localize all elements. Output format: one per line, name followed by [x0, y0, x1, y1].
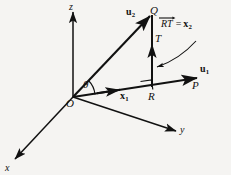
vector-u1-line	[73, 78, 197, 97]
vector-overbar-arrow-icon	[159, 16, 176, 20]
annotation-leader-arrow	[157, 41, 196, 67]
axis-label-z: z	[69, 2, 73, 12]
vector-u2-base: u	[126, 6, 132, 17]
vector-label-u2: u2	[126, 7, 135, 19]
point-label-P: P	[192, 80, 199, 91]
vector-u1-sub: 1	[206, 68, 210, 75]
point-label-O: O	[66, 98, 74, 109]
vector-u2-sub: 2	[132, 11, 136, 18]
vector-label-u1: u1	[200, 64, 209, 76]
x-axis-line	[15, 97, 73, 159]
vector-projection-figure: O Q T R P x y z θ u1 u2 x1 RT =x2	[0, 0, 231, 175]
point-label-T: T	[155, 33, 161, 44]
vector-label-x1: x1	[120, 91, 129, 103]
vector-x1-arrow	[97, 90, 120, 94]
annotation-rt-equals-x2: RT =x2	[160, 19, 192, 31]
annotation-result-sub: 2	[188, 23, 192, 30]
point-label-R: R	[148, 91, 155, 102]
axis-label-x: x	[5, 163, 9, 173]
axis-label-y: y	[180, 125, 184, 135]
theta-arc	[89, 81, 96, 95]
vector-u1-base: u	[200, 63, 206, 74]
vector-x1-sub: 1	[125, 95, 129, 102]
angle-label-theta: θ	[83, 79, 88, 90]
point-label-Q: Q	[150, 5, 158, 16]
annotation-vector-rt: RT	[160, 19, 174, 29]
